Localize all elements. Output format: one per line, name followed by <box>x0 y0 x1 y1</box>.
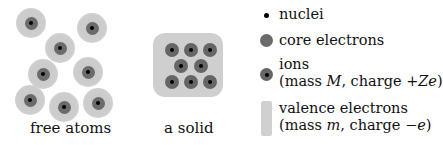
legend-valence-electrons: valence electrons (mass m, charge −e) <box>279 100 431 134</box>
ion <box>184 43 198 57</box>
text: , charge + <box>341 73 418 89</box>
nucleus <box>86 70 90 74</box>
free-atom <box>15 85 45 115</box>
nucleus <box>265 73 269 77</box>
ion <box>184 75 198 89</box>
nucleus <box>170 48 174 52</box>
free-atom <box>45 33 75 63</box>
text: (mass <box>279 117 327 133</box>
legend-valence-detail: (mass m, charge −e) <box>279 117 431 134</box>
charge-symbol: Ze <box>418 73 437 89</box>
nucleus <box>62 105 66 109</box>
nucleus <box>189 48 193 52</box>
free-atom <box>77 13 107 43</box>
ion <box>165 43 179 57</box>
mass-symbol: m <box>327 117 341 133</box>
ion <box>165 75 179 89</box>
mass-symbol: M <box>327 73 342 89</box>
free-atom <box>83 88 113 118</box>
legend-valence-title: valence electrons <box>279 100 431 117</box>
nucleus <box>208 80 212 84</box>
caption-solid: a solid <box>164 119 214 137</box>
text: (mass <box>279 73 327 89</box>
text: , charge − <box>340 117 417 133</box>
nucleus <box>179 64 183 68</box>
free-atom <box>49 92 79 122</box>
legend-core-electrons: core electrons <box>279 32 384 49</box>
free-atom <box>73 57 103 87</box>
nucleus <box>199 64 203 68</box>
legend-ions-title: ions <box>279 56 443 73</box>
ion <box>203 43 217 57</box>
text: ) <box>437 73 443 89</box>
caption-free-atoms: free atoms <box>30 119 111 137</box>
free-atom <box>16 8 46 38</box>
legend-ions-detail: (mass M, charge +Ze) <box>279 73 443 90</box>
legend-nuclei: nuclei <box>279 6 324 23</box>
nucleus <box>41 72 45 76</box>
valence-electron-sea <box>153 33 223 97</box>
ion-icon <box>260 68 273 81</box>
legend-ions: ions (mass M, charge +Ze) <box>279 56 443 90</box>
nucleus <box>189 80 193 84</box>
charge-symbol: e <box>417 117 426 133</box>
ion <box>194 59 208 73</box>
text: ) <box>426 117 432 133</box>
ion <box>174 59 188 73</box>
core-electron-icon <box>260 34 273 47</box>
nucleus <box>28 98 32 102</box>
valence-electron-icon <box>261 101 272 136</box>
nucleus-icon <box>264 13 269 18</box>
nucleus <box>170 80 174 84</box>
nucleus <box>96 101 100 105</box>
nucleus <box>29 21 33 25</box>
nucleus <box>90 26 94 30</box>
nucleus <box>208 48 212 52</box>
ion <box>203 75 217 89</box>
nucleus <box>58 46 62 50</box>
